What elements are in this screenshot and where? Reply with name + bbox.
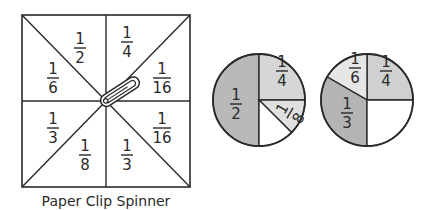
fraction-denominator: 6 xyxy=(48,79,58,97)
pie-slice-label: 12 xyxy=(230,86,242,123)
fraction-denominator: 8 xyxy=(80,156,90,174)
fraction-numerator: 1 xyxy=(277,53,287,71)
spinner-section-label-0: 12 xyxy=(74,30,86,67)
pie-chart-2: 141613 xyxy=(321,50,413,146)
fraction-numerator: 1 xyxy=(48,60,58,78)
fraction-denominator: 16 xyxy=(152,129,171,147)
paper-clip-spinner: 121416116131161813 xyxy=(22,15,190,187)
diagram-canvas: 121416116131161813 121418141613 Paper Cl… xyxy=(0,0,433,210)
pie-slice-label: 16 xyxy=(349,50,361,87)
fraction-denominator: 6 xyxy=(350,69,360,87)
spinner-section-label-6: 18 xyxy=(79,137,91,174)
spinner-section-label-2: 16 xyxy=(47,60,59,97)
fraction-denominator: 4 xyxy=(122,43,132,61)
fraction-denominator: 4 xyxy=(277,72,287,90)
fraction-denominator: 4 xyxy=(381,72,391,90)
spinner-section-label-4: 13 xyxy=(47,110,59,147)
pie-slice-label: 14 xyxy=(276,53,288,90)
fraction-numerator: 1 xyxy=(381,53,391,71)
pie-slice-label: 14 xyxy=(380,53,392,90)
fraction-denominator: 16 xyxy=(152,79,171,97)
fraction-numerator: 1 xyxy=(122,24,132,42)
fraction-numerator: 1 xyxy=(350,50,360,68)
fraction-numerator: 1 xyxy=(157,110,167,128)
spinner-section-label-1: 14 xyxy=(121,24,133,61)
fraction-denominator: 2 xyxy=(231,105,241,123)
spinner-caption: Paper Clip Spinner xyxy=(42,193,171,209)
fraction-denominator: 2 xyxy=(75,49,85,67)
fraction-numerator: 1 xyxy=(48,110,58,128)
fraction-numerator: 1 xyxy=(231,86,241,104)
fraction-numerator: 1 xyxy=(80,137,90,155)
fraction-denominator: 3 xyxy=(48,129,58,147)
spinner-section-label-7: 13 xyxy=(121,137,133,174)
fraction-numerator: 1 xyxy=(342,95,352,113)
fraction-pie-charts: 121418141613 xyxy=(213,50,413,146)
fraction-numerator: 1 xyxy=(122,137,132,155)
fraction-numerator: 1 xyxy=(157,60,167,78)
pie-chart-1: 121418 xyxy=(213,53,309,146)
fraction-numerator: 1 xyxy=(75,30,85,48)
fraction-denominator: 3 xyxy=(122,156,132,174)
pie-slice-label: 13 xyxy=(341,95,353,132)
fraction-denominator: 3 xyxy=(342,114,352,132)
